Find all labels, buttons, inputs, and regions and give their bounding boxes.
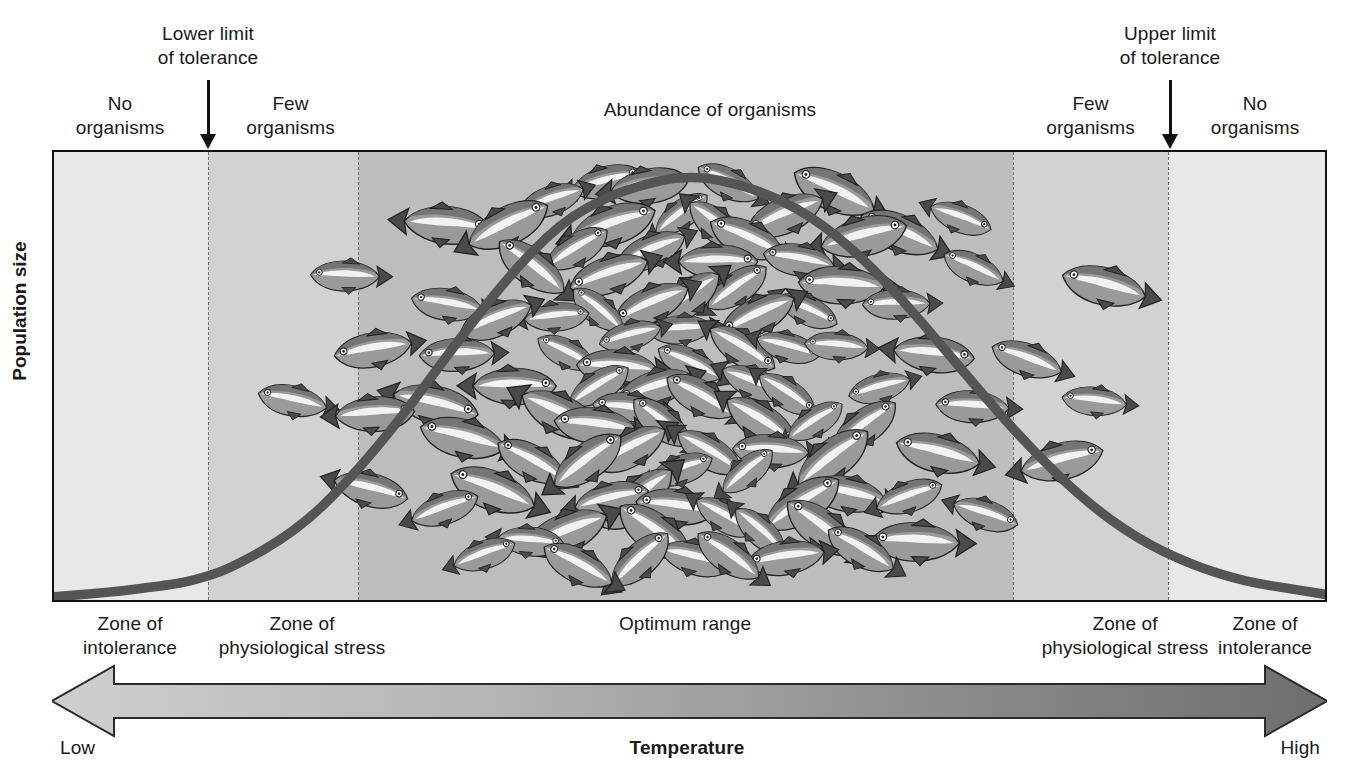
lower-limit-arrow-shaft bbox=[207, 80, 210, 135]
top-label-few-organisms-left: Few organisms bbox=[218, 92, 363, 140]
zone-label-intolerance-right: Zone of intolerance bbox=[1190, 612, 1340, 660]
x-axis-label: Temperature bbox=[567, 736, 807, 760]
top-label-no-organisms-right: No organisms bbox=[1180, 92, 1330, 140]
zone-label-stress-left: Zone of physiological stress bbox=[172, 612, 432, 660]
upper-limit-arrow-head bbox=[1162, 134, 1178, 149]
top-label-no-organisms-left: No organisms bbox=[45, 92, 195, 140]
plot-area bbox=[52, 150, 1327, 602]
temperature-arrow-svg bbox=[52, 662, 1327, 740]
zone-label-optimum-range: Optimum range bbox=[555, 612, 815, 636]
upper-limit-arrow-shaft bbox=[1169, 80, 1172, 135]
top-label-abundance-of-organisms: Abundance of organisms bbox=[515, 98, 905, 122]
figure-root: Lower limit of tolerance Upper limit of … bbox=[0, 0, 1355, 779]
lower-limit-of-tolerance-label: Lower limit of tolerance bbox=[118, 22, 298, 70]
top-label-few-organisms-right: Few organisms bbox=[1018, 92, 1163, 140]
x-axis-low-label: Low bbox=[60, 736, 150, 760]
upper-limit-of-tolerance-label: Upper limit of tolerance bbox=[1080, 22, 1260, 70]
temperature-arrow bbox=[52, 662, 1327, 740]
y-axis-label: Population size bbox=[9, 201, 31, 421]
population-curve bbox=[54, 152, 1327, 602]
x-axis-high-label: High bbox=[1230, 736, 1320, 760]
lower-limit-arrow-head bbox=[200, 134, 216, 149]
